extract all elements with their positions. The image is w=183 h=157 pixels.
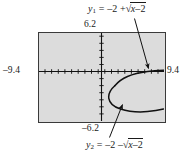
window-xmax-label: 9.4 — [167, 66, 179, 76]
equation-y2-subscript: 2 — [91, 143, 95, 151]
plot-svg — [39, 33, 164, 121]
equation-y2-radicand: x–2 — [128, 138, 144, 150]
equation-y2-equals: = — [97, 139, 103, 150]
equation-y1-equals: = — [99, 3, 105, 14]
window-ymin-label: –6.2 — [82, 124, 99, 134]
equation-y1-radicand: x–2 — [130, 2, 146, 14]
calculator-viewing-window — [38, 32, 166, 123]
equation-y2-constant: –2 — [105, 139, 115, 150]
curve-lower-branch — [109, 86, 164, 112]
equation-y1-radicand-number: 2 — [140, 3, 145, 14]
equation-y1-radical: √x–2 — [126, 3, 146, 14]
window-xmin-label: –9.4 — [3, 66, 20, 76]
equation-y2-radicand-number: 2 — [138, 139, 143, 150]
window-ymax-label: 6.2 — [84, 20, 96, 30]
equation-y1-subscript: 1 — [93, 7, 97, 15]
figure-graph-of-sideways-parabola: 6.2 –6.2 –9.4 9.4 y1 = –2 +√x–2 y2 = –2 … — [0, 0, 183, 157]
curve-upper-branch — [115, 70, 164, 86]
equation-label-y1: y1 = –2 +√x–2 — [88, 4, 146, 15]
equation-y2-radical: √x–2 — [123, 139, 143, 150]
equation-label-y2: y2 = –2 –√x–2 — [86, 140, 143, 151]
equation-y1-constant: –2 — [107, 3, 117, 14]
